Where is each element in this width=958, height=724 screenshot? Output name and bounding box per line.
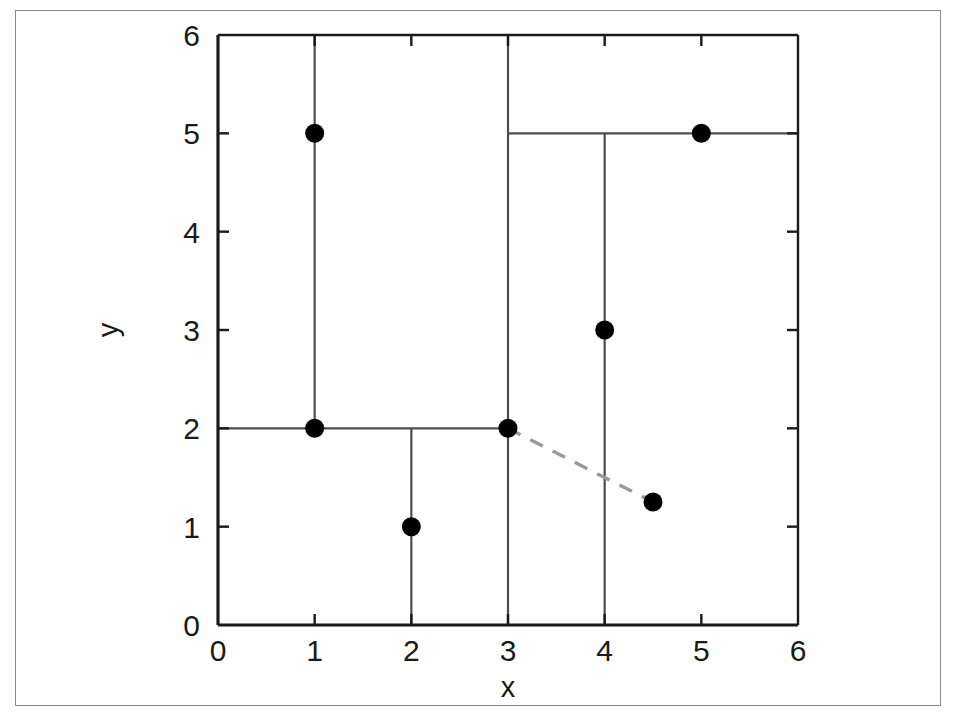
x-tick-label-1: 1 xyxy=(306,634,323,667)
y-axis-title: y xyxy=(92,322,124,337)
y-tick-label-2: 2 xyxy=(183,412,200,445)
x-tick-label-2: 2 xyxy=(403,634,420,667)
partition-lines-group xyxy=(218,35,798,625)
data-point-p-4-3 xyxy=(595,321,614,340)
data-point-q xyxy=(644,493,663,512)
data-point-p-1-5 xyxy=(305,124,324,143)
x-tick-label-5: 5 xyxy=(693,634,710,667)
x-axis-title: x xyxy=(501,671,516,703)
x-tick-label-3: 3 xyxy=(500,634,517,667)
x-tick-label-6: 6 xyxy=(790,634,807,667)
y-tick-label-4: 4 xyxy=(183,216,200,249)
y-tick-label-1: 1 xyxy=(183,511,200,544)
data-point-p-2-1 xyxy=(402,517,421,536)
data-point-p-3-2 xyxy=(499,419,518,438)
data-point-p-5-5 xyxy=(692,124,711,143)
y-tick-label-3: 3 xyxy=(183,314,200,347)
figure-canvas: 01234560123456 x y xyxy=(0,0,958,724)
x-tick-label-4: 4 xyxy=(596,634,613,667)
x-tick-label-0: 0 xyxy=(210,634,227,667)
axis-tick-labels-group: 01234560123456 xyxy=(183,19,806,667)
kd-tree-partition-plot: 01234560123456 x y xyxy=(0,0,958,724)
data-point-p-1-2 xyxy=(305,419,324,438)
annotation-nearest-neighbor-connector xyxy=(508,428,653,502)
annotation-connectors-group xyxy=(508,428,653,502)
y-tick-label-0: 0 xyxy=(183,609,200,642)
y-tick-label-5: 5 xyxy=(183,117,200,150)
y-tick-label-6: 6 xyxy=(183,19,200,52)
